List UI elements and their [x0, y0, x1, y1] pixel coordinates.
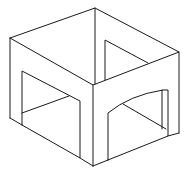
back-opening	[105, 40, 148, 80]
left-bottom-edge	[10, 118, 22, 125]
front-right-bottom	[93, 160, 108, 166]
box-line-art	[0, 0, 186, 175]
right-opening-floor	[123, 104, 166, 129]
left-opening	[22, 71, 80, 158]
isometric-box-drawing	[0, 0, 186, 175]
right-bottom-edge	[168, 133, 179, 136]
front-left-bottom	[80, 158, 93, 166]
left-opening-floor	[22, 96, 69, 113]
